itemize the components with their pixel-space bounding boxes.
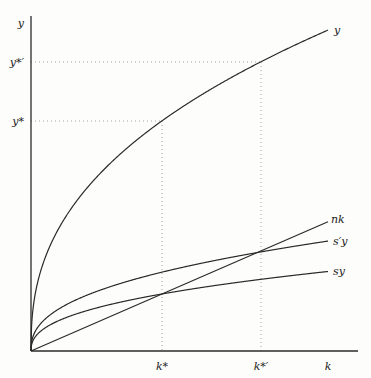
curve-sy (31, 271, 328, 351)
solow-growth-chart: ys′ysynkk*k*′ky*y*′y (0, 0, 371, 378)
label-s-primey: s′y (333, 235, 348, 248)
x-label-k-star: k* (156, 360, 169, 373)
curve-y (31, 30, 328, 351)
label-sy: sy (333, 265, 346, 278)
y-label-y-star: y* (11, 115, 24, 128)
curve-s-primey (31, 241, 328, 351)
curve-nk (31, 222, 328, 351)
x-label-k-star-prime: k*′ (254, 360, 269, 373)
y-axis-title: y (17, 17, 25, 30)
x-axis-title: k (325, 360, 332, 373)
y-label-y-star-prime: y*′ (9, 56, 25, 69)
label-nk: nk (331, 213, 345, 226)
label-y: y (333, 24, 341, 37)
